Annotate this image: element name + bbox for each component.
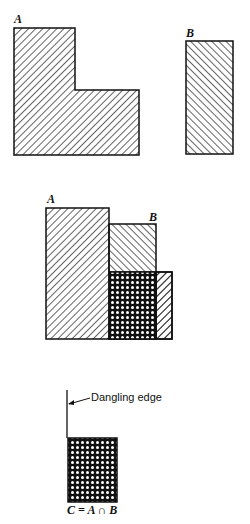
label-b-fig1: B bbox=[186, 26, 194, 41]
overlap-figure bbox=[46, 208, 172, 339]
shape-b bbox=[186, 41, 233, 154]
intersection-result bbox=[67, 390, 117, 502]
label-b-fig2: B bbox=[149, 210, 157, 225]
label-a-fig1: A bbox=[14, 12, 22, 27]
shape-a bbox=[14, 28, 139, 155]
label-a-fig2: A bbox=[47, 192, 55, 207]
intersection-caption: C = A ∩ B bbox=[67, 503, 117, 518]
dangling-edge-annotation: Dangling edge bbox=[91, 391, 162, 403]
diagram-canvas bbox=[0, 0, 250, 524]
